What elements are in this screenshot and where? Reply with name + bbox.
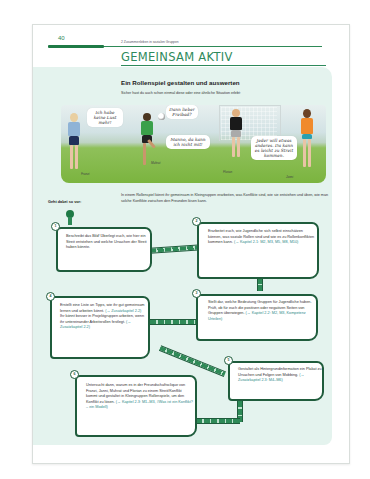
step-card-4: Erstellt eine Liste an Tipps, wie ihr gu… [50, 296, 150, 359]
step-card-5: Gestaltet als Hintergrundinformation ein… [228, 361, 324, 401]
step-number-3: 3 [192, 289, 201, 298]
step-card-2: Erarbeitet euch, wie Jugendliche sich se… [197, 222, 319, 279]
step-1-text: Beschreibt das Bild! Überlegt euch, wie … [66, 234, 148, 251]
soccer-field-illustration: Ich habe keine Lust mehr! Dann lieber Fr… [61, 105, 326, 183]
activity-subtitle: Ein Rollenspiel gestalten und auswerten [121, 79, 240, 86]
character-florian [229, 109, 243, 164]
step-number-4: 4 [46, 292, 55, 301]
path-connector-5-6 [196, 418, 240, 424]
path-connector-3-4 [150, 319, 202, 325]
step-3-text: Stellt dar, welche Bedeutung Gruppen für… [208, 300, 316, 322]
step-4-text: Erstellt eine Liste an Tipps, wie ihr gu… [60, 303, 148, 331]
step-number-2: 2 [192, 217, 201, 226]
speech-bubble-muhrat: Dann lieber Freibad? [166, 105, 198, 119]
step-2-text: Erarbeitet euch, wie Jugendliche sich se… [208, 229, 316, 246]
step-2-reference: (→ Kapitel 2.1: M2, M3, M5, M8, M10) [234, 240, 298, 244]
step-card-1: Beschreibt das Bild! Überlegt euch, wie … [56, 227, 152, 272]
character-janni [299, 109, 315, 177]
step-6-text: Untersucht dann, warum es in der Freunds… [86, 383, 194, 411]
step-number-6: 6 [70, 370, 79, 379]
step-card-6: Untersucht dann, warum es in der Freunds… [75, 375, 197, 437]
page-number-bar [48, 45, 104, 48]
step-number-5: 5 [224, 356, 233, 365]
step-card-3: Stellt dar, welche Bedeutung Gruppen für… [196, 294, 318, 341]
activity-intro: Sicher hast du auch schon einmal diese o… [121, 91, 241, 95]
speech-bubble-franzi: Ich habe keine Lust mehr! [87, 108, 123, 127]
procedure-label: Geht dabei so vor: [48, 200, 81, 204]
path-connector-2-3 [257, 277, 263, 291]
page-number: 40 [58, 35, 65, 41]
label-florian: Florian [223, 170, 232, 174]
step-5-text: Gestaltet als Hintergrundinformation ein… [238, 367, 322, 384]
step-4-reference: (→ Zusatzkapitel 2.2) [105, 309, 141, 313]
character-franzi [66, 113, 82, 178]
section-title: GEMEINSAM AKTIV [121, 50, 233, 64]
title-rule [121, 65, 326, 66]
step-number-1: 1 [51, 222, 60, 231]
speech-bubble-janni: Jeder will etwas anderes. Da kann es lei… [251, 136, 297, 160]
header-rule [104, 46, 322, 47]
soccer-ball [158, 113, 165, 120]
label-janni: Janni [286, 175, 293, 179]
speech-bubble-florian: Manno, da kann ich nicht mit! [166, 135, 210, 149]
procedure-intro: In einem Rollenspiel könnt ihr gemeinsam… [121, 193, 331, 204]
label-muhrat: Muhrat [151, 161, 160, 165]
running-head: 2 Zusammenleben in sozialen Gruppen [121, 40, 179, 44]
start-pin-stem [68, 217, 72, 225]
label-franzi: Franzi [81, 172, 89, 176]
